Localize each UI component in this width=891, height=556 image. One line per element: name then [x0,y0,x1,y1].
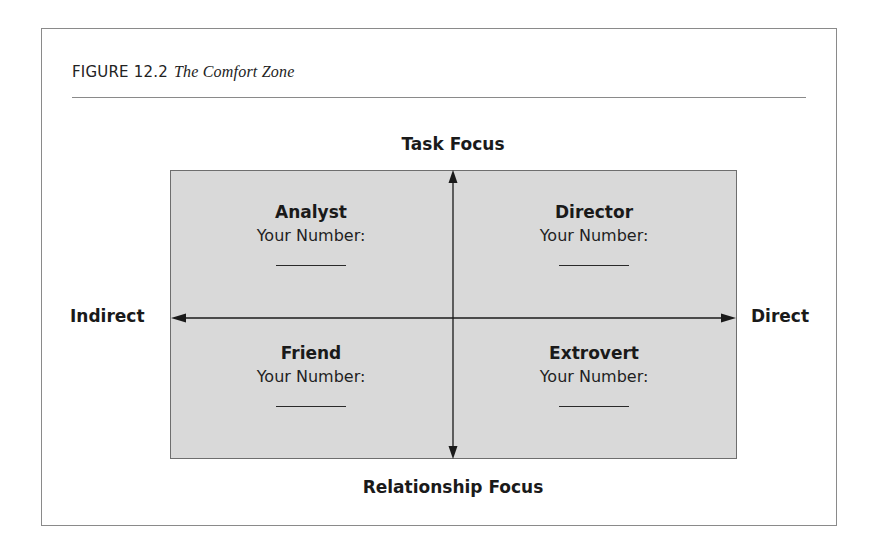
arrow-down-icon [449,446,458,459]
arrow-right-icon [721,314,736,323]
arrow-up-icon [449,170,458,183]
arrow-left-icon [171,314,186,323]
axes-arrows [0,0,891,556]
